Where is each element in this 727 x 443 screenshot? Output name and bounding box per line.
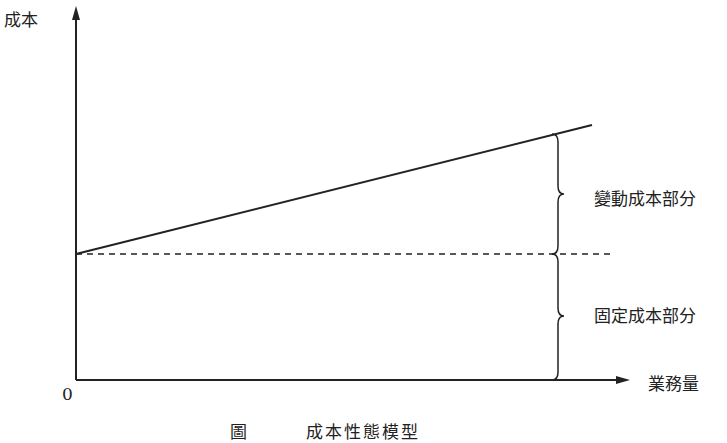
figure-caption: 圖 成本性態模型 (230, 418, 420, 443)
fixed-cost-brace (552, 254, 564, 380)
total-cost-line (76, 125, 592, 254)
variable-cost-label: 變動成本部分 (594, 185, 696, 210)
y-axis-label: 成本 (4, 6, 38, 31)
variable-cost-brace (552, 134, 564, 254)
x-axis-arrow-icon (616, 376, 630, 384)
origin-label: 0 (62, 384, 73, 404)
y-axis-arrow-icon (72, 6, 80, 20)
x-axis-label: 業務量 (648, 370, 699, 395)
fixed-cost-label: 固定成本部分 (594, 302, 696, 327)
